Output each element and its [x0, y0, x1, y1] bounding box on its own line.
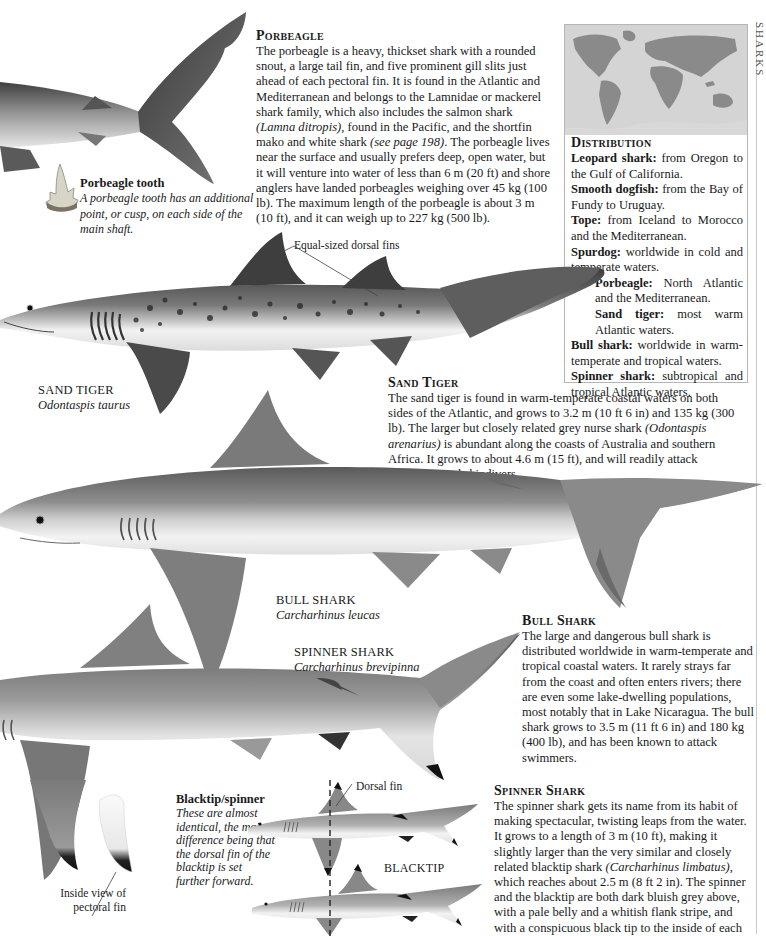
pectoral-fin-label: Inside view of pectoral fin [46, 886, 126, 914]
spinner-shark-section: Spinner Shark The spinner shark gets its… [494, 783, 756, 936]
bull-shark-section: Bull Shark The large and dangerous bull … [522, 613, 756, 766]
spinner-shark-heading: Spinner Shark [494, 783, 756, 799]
porbeagle-body-1: The porbeagle is a heavy, thickset shark… [256, 44, 541, 119]
porbeagle-tooth-title: Porbeagle tooth [80, 176, 255, 191]
dist-species: Tope: [571, 213, 601, 227]
blacktip-comparison-illustration [248, 776, 488, 936]
distribution-heading: Distribution [571, 135, 743, 151]
porbeagle-tooth-icon [44, 162, 80, 214]
distribution-entry-smooth-dogfish: Smooth dogfish: from the Bay of Fundy to… [571, 182, 743, 213]
porbeagle-body-sci: (Lamna ditropis) [256, 120, 341, 134]
spinner-shark-scientific-name: Carcharhinus brevipinna [294, 660, 420, 675]
spinner-shark-caption: SPINNER SHARK Carcharhinus brevipinna [294, 645, 420, 675]
bull-shark-heading: Bull Shark [522, 613, 756, 629]
bull-shark-illustration [0, 388, 766, 608]
blacktip-label: BLACKTIP [384, 861, 444, 876]
distribution-entry-leopard: Leopard shark: from Oregon to the Gulf o… [571, 151, 743, 182]
spinner-body-sci: (Carcharhinus limbatus) [606, 860, 730, 874]
porbeagle-body: The porbeagle is a heavy, thickset shark… [256, 44, 552, 226]
running-head: SHARKS [750, 22, 766, 112]
bull-shark-body: The large and dangerous bull shark is di… [522, 629, 756, 766]
spinner-shark-common-name: SPINNER SHARK [294, 645, 420, 660]
spinner-shark-body: The spinner shark gets its name from its… [494, 799, 756, 936]
dist-species: Leopard shark: [571, 151, 657, 165]
porbeagle-heading: Porbeagle [256, 28, 552, 44]
porbeagle-body-ref: (see page 198) [370, 135, 444, 149]
spinner-shark-small [252, 864, 482, 936]
world-map [565, 25, 747, 135]
dorsal-fin-label: Dorsal fin [356, 779, 402, 793]
dist-species: Smooth dogfish: [571, 182, 659, 196]
pectoral-fin-illustration [20, 780, 160, 880]
equal-dorsal-fins-label: Equal-sized dorsal fins [294, 238, 399, 252]
porbeagle-illustration [0, 0, 260, 185]
spinner-shark-illustration [0, 600, 530, 780]
porbeagle-section: Porbeagle The porbeagle is a heavy, thic… [256, 28, 552, 226]
